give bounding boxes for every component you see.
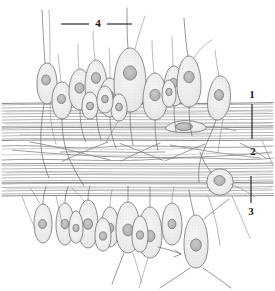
cell-lower-9 (95, 218, 111, 251)
label-2: 2 (250, 145, 256, 157)
label-3-text: 3 (248, 205, 254, 217)
cell-upper-12 (111, 94, 127, 121)
cell-upper-11 (82, 92, 98, 119)
label-2-text: 2 (250, 145, 256, 157)
histology-diagram: 1 2 3 4 (0, 0, 275, 291)
figure-canvas: 1 2 3 4 (0, 0, 275, 291)
cell-upper-14 (97, 86, 113, 113)
label-1-text: 1 (249, 88, 255, 100)
cell-lower-10 (132, 216, 148, 252)
cell-lower-11 (69, 211, 83, 243)
cell-upper-13 (162, 80, 176, 107)
label-4-text: 4 (95, 17, 101, 29)
